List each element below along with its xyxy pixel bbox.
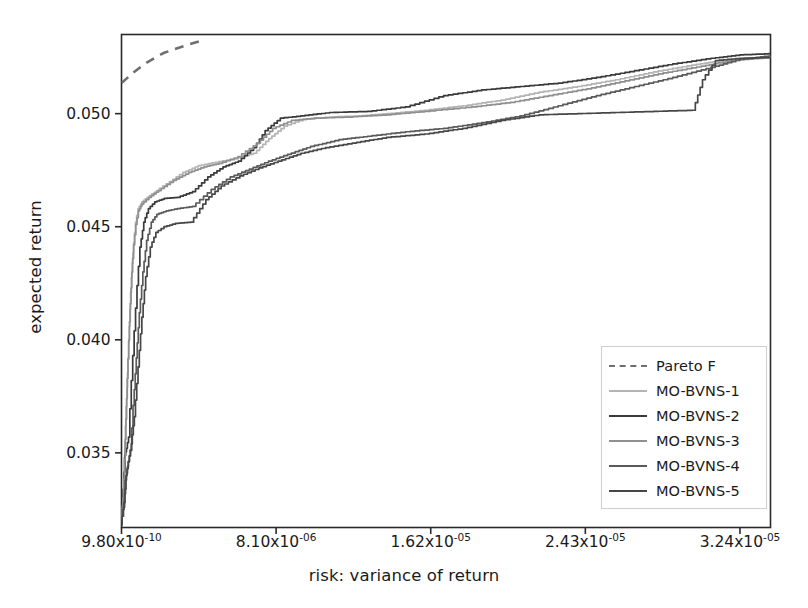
y-tick-label-3: 0.050 — [66, 105, 110, 123]
legend-line-swatch-icon-0 — [609, 360, 647, 372]
x-tick-exponent-0: -10 — [145, 531, 162, 543]
legend-item-mo-bvns-4[interactable]: MO-BVNS-4 — [609, 453, 758, 478]
x-tick-mantissa-3: 2.43x10 — [545, 533, 608, 551]
legend-line-swatch-icon-4 — [609, 460, 647, 472]
legend-label-4: MO-BVNS-4 — [656, 458, 740, 474]
legend: Pareto FMO-BVNS-1MO-BVNS-2MO-BVNS-3MO-BV… — [601, 346, 767, 509]
x-tick-exponent-2: -05 — [454, 531, 471, 543]
plot-canvas — [0, 0, 808, 608]
x-tick-exponent-4: -05 — [763, 531, 780, 543]
legend-swatch-rule — [609, 490, 647, 492]
legend-swatch-rule — [609, 365, 647, 367]
legend-swatch-rule — [609, 440, 647, 442]
x-tick-label-2: 1.62x10-05 — [390, 533, 471, 551]
x-tick-label-3: 2.43x10-05 — [545, 533, 626, 551]
legend-line-swatch-icon-5 — [609, 485, 647, 497]
legend-swatch-rule — [609, 390, 647, 392]
x-tick-mantissa-0: 9.80x10 — [81, 533, 144, 551]
legend-label-1: MO-BVNS-1 — [656, 383, 740, 399]
x-tick-mantissa-2: 1.62x10 — [390, 533, 453, 551]
legend-label-0: Pareto F — [656, 358, 716, 374]
legend-item-mo-bvns-1[interactable]: MO-BVNS-1 — [609, 378, 758, 403]
legend-label-2: MO-BVNS-2 — [656, 408, 740, 424]
legend-item-mo-bvns-5[interactable]: MO-BVNS-5 — [609, 478, 758, 503]
legend-label-3: MO-BVNS-3 — [656, 433, 740, 449]
chart-figure: expected return risk: variance of return… — [0, 0, 808, 608]
legend-item-mo-bvns-2[interactable]: MO-BVNS-2 — [609, 403, 758, 428]
y-axis-label: expected return — [26, 200, 45, 334]
x-tick-exponent-3: -05 — [608, 531, 625, 543]
y-axis-label-container: expected return — [26, 167, 50, 367]
x-tick-mantissa-4: 3.24x10 — [700, 533, 763, 551]
x-axis-label: risk: variance of return — [0, 566, 808, 585]
x-tick-label-0: 9.80x10-10 — [81, 533, 162, 551]
legend-swatch-rule — [609, 415, 647, 417]
x-tick-exponent-1: -06 — [299, 531, 316, 543]
x-tick-mantissa-1: 8.10x10 — [236, 533, 299, 551]
x-tick-label-1: 8.10x10-06 — [236, 533, 317, 551]
legend-item-mo-bvns-3[interactable]: MO-BVNS-3 — [609, 428, 758, 453]
legend-line-swatch-icon-1 — [609, 385, 647, 397]
y-tick-label-2: 0.045 — [66, 218, 110, 236]
legend-label-5: MO-BVNS-5 — [656, 483, 740, 499]
x-tick-label-4: 3.24x10-05 — [700, 533, 781, 551]
legend-item-pareto-f[interactable]: Pareto F — [609, 353, 758, 378]
y-tick-label-1: 0.040 — [66, 331, 110, 349]
legend-line-swatch-icon-2 — [609, 410, 647, 422]
legend-swatch-rule — [609, 465, 647, 467]
y-tick-label-0: 0.035 — [66, 444, 110, 462]
legend-line-swatch-icon-3 — [609, 435, 647, 447]
